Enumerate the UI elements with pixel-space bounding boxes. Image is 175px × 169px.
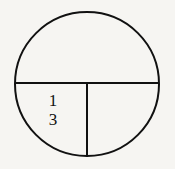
fraction-numerator: 1 [49, 92, 58, 110]
circle-diagram [0, 0, 175, 169]
fraction-label-one-third: 1 3 [40, 93, 66, 127]
fraction-circle-figure: 1 3 [0, 0, 175, 169]
fraction-denominator: 3 [49, 110, 58, 128]
